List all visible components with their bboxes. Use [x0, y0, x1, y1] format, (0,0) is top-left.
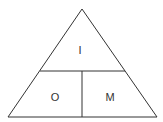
- formula-triangle: I O M: [0, 0, 163, 122]
- label-bottom-left: O: [51, 91, 60, 103]
- label-top: I: [78, 44, 81, 56]
- label-bottom-right: M: [105, 91, 114, 103]
